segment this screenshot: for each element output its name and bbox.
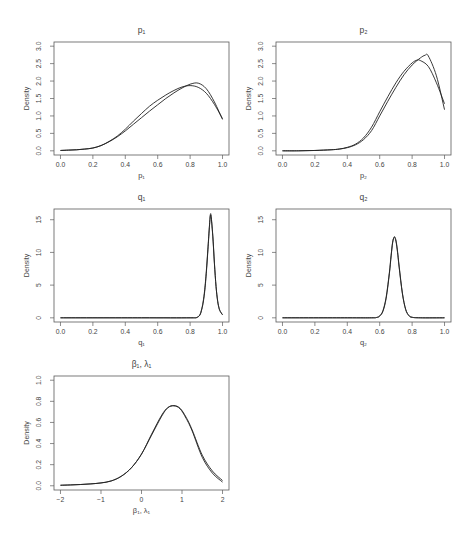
y-tick-label: 1.5 bbox=[257, 94, 264, 104]
x-tick-label: 1 bbox=[180, 496, 184, 503]
x-tick-label: 0.8 bbox=[407, 161, 417, 168]
y-tick-label: 10 bbox=[35, 248, 42, 256]
x-tick-label: 0.2 bbox=[310, 328, 320, 335]
x-tick-label: 0.4 bbox=[343, 161, 353, 168]
y-tick-label: 0 bbox=[35, 316, 42, 320]
y-tick-label: 0.4 bbox=[35, 439, 42, 449]
panel-q2: q₂ q₂ Density 0.00.20.40.60.81.0051015 bbox=[245, 192, 451, 347]
x-axis-label: q₁ bbox=[138, 338, 145, 347]
x-tick-label: 0.0 bbox=[278, 328, 288, 335]
density-curve bbox=[60, 406, 222, 486]
x-tick-label: 0.2 bbox=[310, 161, 320, 168]
panel-title: p₂ bbox=[359, 25, 367, 35]
x-axis-label: p₂ bbox=[360, 171, 367, 180]
y-axis-label: Density bbox=[23, 421, 31, 445]
x-tick-label: 1.0 bbox=[218, 161, 228, 168]
x-tick-label: −2 bbox=[57, 496, 65, 503]
x-tick-label: −1 bbox=[97, 496, 105, 503]
y-tick-label: 5 bbox=[257, 283, 264, 287]
y-axis-label: Density bbox=[23, 86, 31, 110]
x-axis-label: β₁, λ₁ bbox=[133, 506, 151, 515]
y-tick-label: 0.6 bbox=[35, 418, 42, 428]
x-tick-label: 2 bbox=[221, 496, 225, 503]
x-tick-label: 0.8 bbox=[185, 328, 195, 335]
plot-frame bbox=[54, 42, 229, 155]
density-curve bbox=[282, 237, 444, 318]
x-tick-label: 0.6 bbox=[153, 161, 163, 168]
density-curve bbox=[60, 83, 222, 151]
x-axis-label: p₁ bbox=[138, 171, 145, 180]
x-tick-label: 0.4 bbox=[121, 161, 131, 168]
panel-p1: p₁ p₁ Density 0.00.20.40.60.81.00.00.51.… bbox=[23, 25, 229, 180]
y-tick-label: 1.0 bbox=[35, 375, 42, 385]
y-tick-label: 0.0 bbox=[35, 146, 42, 156]
panel-q1: q₁ q₁ Density 0.00.20.40.60.81.0051015 bbox=[23, 192, 229, 347]
x-tick-label: 0.8 bbox=[185, 161, 195, 168]
x-tick-label: 0.4 bbox=[343, 328, 353, 335]
density-curve bbox=[282, 60, 444, 151]
y-tick-label: 0.5 bbox=[35, 128, 42, 138]
plot-frame bbox=[54, 376, 229, 490]
x-tick-label: 0.8 bbox=[407, 328, 417, 335]
y-tick-label: 2.0 bbox=[35, 76, 42, 86]
y-tick-label: 1.0 bbox=[35, 111, 42, 121]
x-axis-label: q₂ bbox=[360, 338, 367, 347]
y-tick-label: 2.5 bbox=[257, 59, 264, 69]
density-figure: p₁ p₁ Density 0.00.20.40.60.81.00.00.51.… bbox=[0, 0, 473, 536]
y-tick-label: 5 bbox=[35, 283, 42, 287]
panel-title: p₁ bbox=[138, 25, 146, 35]
panel-title: β₁, λ₁ bbox=[132, 359, 152, 369]
y-tick-label: 0 bbox=[257, 316, 264, 320]
y-tick-label: 2.5 bbox=[35, 59, 42, 69]
y-axis-label: Density bbox=[23, 253, 31, 277]
panel-title: q₁ bbox=[138, 192, 146, 202]
y-tick-label: 0.5 bbox=[257, 128, 264, 138]
y-tick-label: 3.0 bbox=[35, 41, 42, 51]
x-tick-label: 0.0 bbox=[278, 161, 288, 168]
x-tick-label: 0.6 bbox=[153, 328, 163, 335]
y-tick-label: 15 bbox=[35, 216, 42, 224]
y-tick-label: 1.0 bbox=[257, 111, 264, 121]
y-axis-label: Density bbox=[245, 86, 253, 110]
panel-p2: p₂ p₂ Density 0.00.20.40.60.81.00.00.51.… bbox=[245, 25, 451, 180]
x-tick-label: 0.4 bbox=[121, 328, 131, 335]
density-curve bbox=[60, 214, 222, 318]
y-tick-label: 0.2 bbox=[35, 460, 42, 470]
x-tick-label: 0.0 bbox=[56, 328, 66, 335]
x-tick-label: 1.0 bbox=[440, 328, 450, 335]
x-tick-label: 1.0 bbox=[218, 328, 228, 335]
y-tick-label: 10 bbox=[257, 248, 264, 256]
y-tick-label: 0.0 bbox=[257, 146, 264, 156]
density-curve bbox=[60, 215, 222, 318]
x-tick-label: 0.6 bbox=[375, 328, 385, 335]
density-curve bbox=[282, 54, 444, 151]
x-tick-label: 0.2 bbox=[88, 161, 98, 168]
y-tick-label: 0.0 bbox=[35, 481, 42, 491]
x-tick-label: 0.0 bbox=[56, 161, 66, 168]
x-tick-label: 0.6 bbox=[375, 161, 385, 168]
panel-beta1-lambda1: β₁, λ₁ β₁, λ₁ Density −2−10120.00.20.40.… bbox=[23, 359, 229, 515]
x-tick-label: 0.2 bbox=[88, 328, 98, 335]
y-tick-label: 3.0 bbox=[257, 41, 264, 51]
x-tick-label: 0 bbox=[140, 496, 144, 503]
y-tick-label: 1.5 bbox=[35, 94, 42, 104]
plot-frame bbox=[276, 209, 451, 322]
panel-title: q₂ bbox=[359, 192, 367, 202]
x-tick-label: 1.0 bbox=[440, 161, 450, 168]
y-tick-label: 15 bbox=[257, 216, 264, 224]
y-tick-label: 0.8 bbox=[35, 396, 42, 406]
y-axis-label: Density bbox=[245, 253, 253, 277]
y-tick-label: 2.0 bbox=[257, 76, 264, 86]
density-curve bbox=[282, 237, 444, 317]
